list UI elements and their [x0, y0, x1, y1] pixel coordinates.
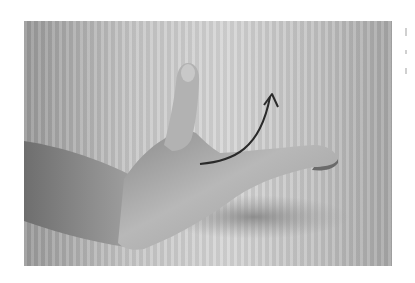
hand-illustration: [24, 21, 392, 266]
hand-photo: [24, 21, 392, 266]
cropped-text-fragment: [405, 28, 411, 88]
thumbnail: [181, 64, 195, 82]
arrow-head-icon: [264, 94, 278, 107]
